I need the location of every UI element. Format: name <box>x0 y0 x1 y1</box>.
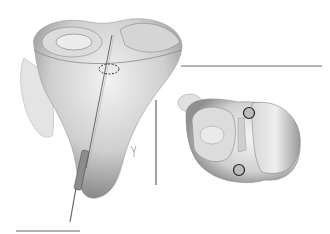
marker-circle-anterior <box>234 165 245 176</box>
tibial-plateau-top-view <box>178 94 300 183</box>
tibia-anterior-view <box>34 19 182 198</box>
anatomy-illustration <box>0 0 330 234</box>
marker-circle-posterior <box>244 108 255 119</box>
